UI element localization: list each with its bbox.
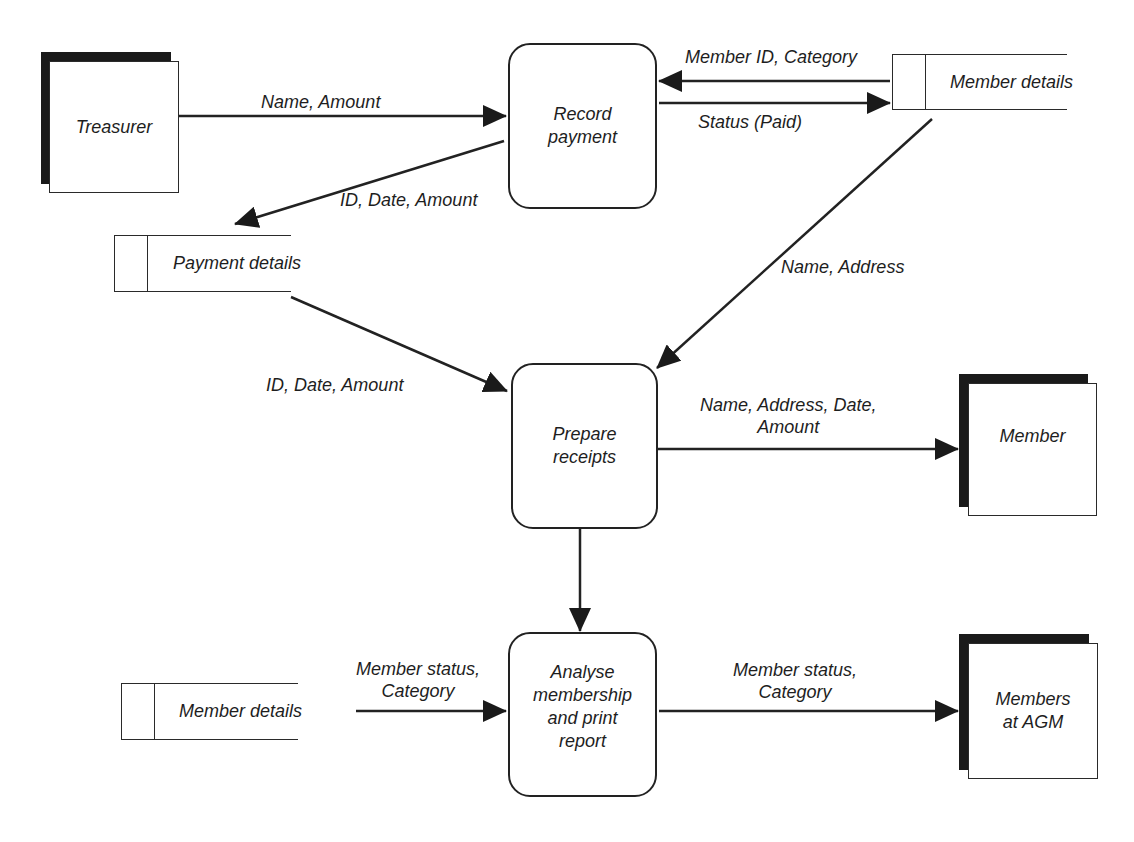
entity-members-at-agm: Members at AGM — [959, 634, 1098, 779]
entity-treasurer: Treasurer — [41, 52, 179, 193]
flow-label-name-amount: Name, Amount — [261, 91, 380, 113]
flow-label-id-date-amount-2: ID, Date, Amount — [266, 374, 403, 396]
entity-label: Members at AGM — [995, 688, 1070, 734]
process-record-payment: Record payment — [508, 43, 657, 209]
entity-member: Member — [959, 374, 1097, 516]
flow-record-payment-to-payment-details — [235, 141, 504, 224]
flow-label-status-category-in: Member status, Category — [356, 658, 480, 702]
entity-face: Treasurer — [49, 61, 179, 193]
process-label: Prepare receipts — [552, 423, 616, 469]
store-member-details-bottom: Member details — [121, 683, 298, 740]
process-label: Analyse membership and print report — [533, 661, 632, 753]
process-prepare-receipts: Prepare receipts — [511, 363, 658, 529]
flow-label-name-address: Name, Address — [781, 256, 904, 278]
process-label: Record payment — [548, 103, 617, 149]
entity-face: Members at AGM — [968, 643, 1098, 779]
flow-label-member-id-category: Member ID, Category — [685, 46, 857, 68]
flow-member-details-to-prepare-receipts — [657, 119, 932, 368]
entity-label: Member — [999, 425, 1065, 448]
store-label: Payment details — [173, 235, 301, 292]
store-label: Member details — [179, 683, 302, 740]
process-analyse-membership: Analyse membership and print report — [508, 632, 657, 797]
store-member-details-top: Member details — [892, 54, 1067, 110]
flow-label-status-paid: Status (Paid) — [698, 111, 802, 133]
store-label: Member details — [950, 54, 1073, 110]
entity-face: Member — [968, 383, 1097, 516]
flow-label-receipt-details: Name, Address, Date, Amount — [700, 394, 876, 438]
flow-label-status-category-out: Member status, Category — [733, 659, 857, 703]
store-payment-details: Payment details — [114, 235, 291, 292]
flow-label-id-date-amount-1: ID, Date, Amount — [340, 189, 477, 211]
entity-label: Treasurer — [76, 116, 153, 139]
